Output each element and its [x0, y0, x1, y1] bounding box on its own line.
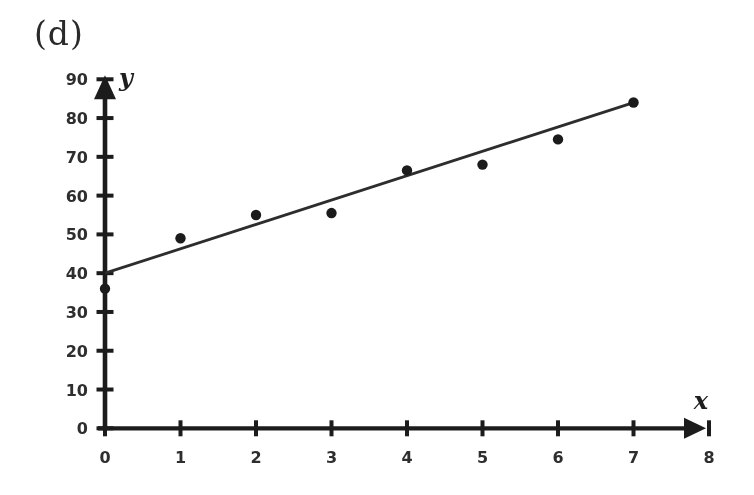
- y-tick-label: 0: [77, 419, 88, 438]
- axis-ticks: [97, 79, 710, 436]
- scatter-chart: 0123456780102030405060708090 y x: [0, 0, 754, 495]
- data-point: [628, 97, 638, 107]
- x-tick-label: 7: [628, 448, 639, 467]
- x-tick-label: 0: [99, 448, 110, 467]
- x-tick-label: 3: [326, 448, 337, 467]
- data-point: [553, 134, 563, 144]
- best-fit-line: [105, 103, 634, 274]
- x-tick-label: 1: [175, 448, 186, 467]
- y-tick-label: 60: [66, 187, 88, 206]
- data-point: [100, 283, 110, 293]
- data-point: [326, 208, 336, 218]
- y-tick-label: 10: [66, 381, 88, 400]
- x-axis-arrowhead-icon: [684, 418, 706, 439]
- y-tick-label: 40: [66, 264, 88, 283]
- y-axis-label: y: [118, 63, 135, 92]
- x-tick-label: 4: [401, 448, 412, 467]
- y-tick-label: 70: [66, 148, 88, 167]
- y-tick-label: 30: [66, 303, 88, 322]
- y-tick-label: 20: [66, 342, 88, 361]
- y-tick-label: 80: [66, 109, 88, 128]
- axes: [94, 75, 706, 439]
- chart-panel: (d) 0123456780102030405060708090 y x: [0, 0, 754, 495]
- data-series: [100, 97, 639, 294]
- x-axis-label: x: [693, 386, 709, 415]
- data-point: [175, 233, 185, 243]
- x-tick-label: 5: [477, 448, 488, 467]
- data-point: [477, 159, 487, 169]
- y-tick-label: 90: [66, 70, 88, 89]
- y-tick-label: 50: [66, 225, 88, 244]
- x-tick-label: 6: [552, 448, 563, 467]
- axis-tick-labels: 0123456780102030405060708090: [66, 70, 715, 467]
- x-tick-label: 2: [250, 448, 261, 467]
- x-tick-label: 8: [703, 448, 714, 467]
- data-point: [402, 165, 412, 175]
- data-point: [251, 210, 261, 220]
